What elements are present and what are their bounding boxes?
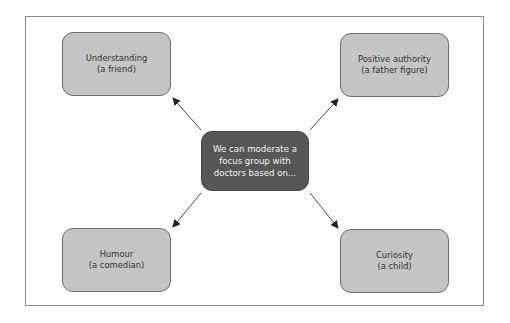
center-line-2: focus group with [219,155,291,167]
node-humour: Humour (a comedian) [62,228,171,292]
node-subtitle: (a friend) [97,64,136,76]
center-line-1: We can moderate a [213,143,297,155]
node-understanding: Understanding (a friend) [62,32,171,96]
node-curiosity: Curiosity (a child) [340,229,449,293]
node-subtitle: (a father figure) [361,65,428,77]
arrow-to-top-left [173,98,201,130]
arrow-to-top-right [310,99,338,130]
node-title: Understanding [86,53,148,65]
node-title: Positive authority [358,54,431,66]
node-subtitle: (a comedian) [89,260,144,272]
node-title: Humour [100,249,134,261]
node-positive-authority: Positive authority (a father figure) [340,33,449,97]
center-line-3: doctors based on... [214,167,296,179]
node-title: Curiosity [376,250,413,262]
arrow-to-bottom-right [310,193,338,228]
arrow-to-bottom-left [173,193,201,227]
center-node: We can moderate a focus group with docto… [201,131,309,191]
node-subtitle: (a child) [377,261,411,273]
